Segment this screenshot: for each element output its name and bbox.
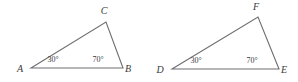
angle-label-b: 70° <box>92 55 103 64</box>
angle-label-a-text: 30° <box>47 55 58 64</box>
vertex-label-f-text: F <box>252 1 260 12</box>
vertex-label-c-text: C <box>101 5 108 16</box>
angle-label-e-text: 70° <box>246 56 257 65</box>
vertex-label-d-text: D <box>155 64 164 75</box>
angle-label-b-text: 70° <box>92 55 103 64</box>
similar-triangles-figure: A B C 30° 70° D E F 30° 70° <box>0 0 298 82</box>
vertex-label-e-text: E <box>280 64 287 75</box>
vertex-label-f: F <box>252 1 260 12</box>
angle-label-d-text: 30° <box>190 56 201 65</box>
vertex-label-a: A <box>16 63 24 74</box>
vertex-label-a-text: A <box>16 63 24 74</box>
vertex-label-c: C <box>101 5 108 16</box>
vertex-label-e: E <box>280 64 287 75</box>
angle-label-a: 30° <box>47 55 58 64</box>
triangle-def-group: D E F 30° 70° <box>155 1 287 75</box>
triangle-abc-outline <box>31 22 123 68</box>
vertex-label-d: D <box>155 64 164 75</box>
angle-label-e: 70° <box>246 56 257 65</box>
geometry-canvas: A B C 30° 70° D E F 30° 70° <box>0 0 298 82</box>
triangle-abc-group: A B C 30° 70° <box>16 5 131 74</box>
vertex-label-b-text: B <box>125 63 131 74</box>
vertex-label-b: B <box>125 63 131 74</box>
angle-label-d: 30° <box>190 56 201 65</box>
triangle-def-outline <box>172 17 279 69</box>
